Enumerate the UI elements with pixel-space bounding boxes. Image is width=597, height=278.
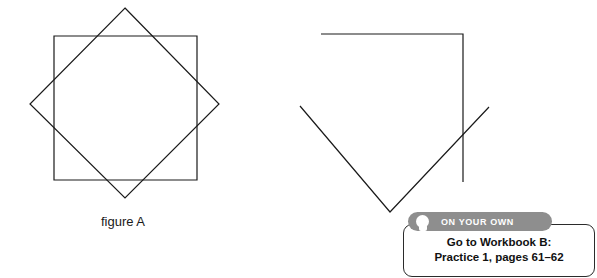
figure-a-caption: figure A <box>8 214 238 229</box>
figure-a-svg <box>8 0 238 215</box>
callout-tab-label: ON YOUR OWN <box>441 217 514 227</box>
figure-b-illustration <box>288 14 518 229</box>
person-icon <box>416 215 429 228</box>
figure-b-open-chevron <box>300 106 489 212</box>
callout-line-1: Go to Workbook B: <box>403 235 595 250</box>
figure-b-open-polyline <box>321 34 463 182</box>
callout-text: Go to Workbook B: Practice 1, pages 61–6… <box>403 235 595 265</box>
on-your-own-callout: ON YOUR OWN Go to Workbook B: Practice 1… <box>403 212 597 278</box>
figure-a-illustration <box>8 0 238 215</box>
callout-tab: ON YOUR OWN <box>408 212 552 231</box>
worksheet-page: figure A ON YOUR OWN Go to Workbook B: P… <box>0 0 597 278</box>
figure-b-svg <box>288 14 518 229</box>
callout-line-2: Practice 1, pages 61–62 <box>403 250 595 265</box>
